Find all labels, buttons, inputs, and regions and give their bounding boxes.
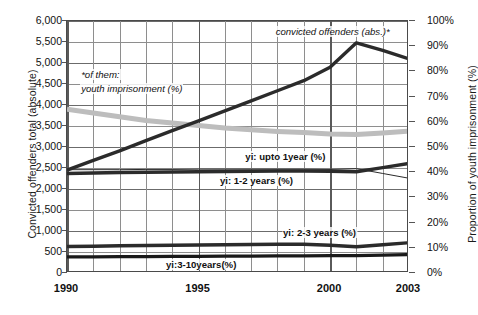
y-tick-label-right: 50%: [427, 141, 467, 151]
y-axis-right-ticks: 0%10%20%30%40%50%60%70%80%90%100%: [418, 0, 462, 315]
y-tick-label-right: 0%: [427, 267, 467, 277]
tick-mark: [409, 121, 415, 122]
y-tick-label-left: 4,500: [18, 78, 62, 88]
series-label: yi: 1-2 years (%): [219, 175, 294, 186]
y-tick-label-left: 6,000: [18, 15, 62, 25]
y-axis-right-title: Proportion of youth imprisonment (%): [466, 34, 478, 274]
y-tick-label-right: 70%: [427, 91, 467, 101]
y-tick-label-left: 5,000: [18, 57, 62, 67]
series-label: *of them:: [80, 69, 120, 80]
y-tick-label-left: 500: [18, 246, 62, 256]
y-tick-label-right: 60%: [427, 116, 467, 126]
series-label: yi:3-10years(%): [165, 259, 237, 270]
tick-mark: [409, 222, 415, 223]
tick-mark: [409, 70, 415, 71]
series-label: yi: 2-3 years (%): [282, 227, 357, 238]
series-label: convicted offenders (abs.)*: [275, 26, 391, 37]
tick-mark: [409, 171, 415, 172]
y-tick-label-right: 90%: [427, 40, 467, 50]
tick-mark: [409, 96, 415, 97]
y-tick-label-left: 5,500: [18, 36, 62, 46]
y-tick-label-left: 0: [18, 267, 62, 277]
tick-mark: [409, 146, 415, 147]
x-tick-label: 2003: [396, 282, 420, 294]
y-tick-label-left: 1,000: [18, 225, 62, 235]
series-line: [67, 109, 408, 134]
y-tick-label-right: 10%: [427, 242, 467, 252]
y-tick-label-right: 20%: [427, 217, 467, 227]
y-tick-label-right: 30%: [427, 191, 467, 201]
tick-mark: [409, 196, 415, 197]
plot-area: convicted offenders (abs.)**of them:yout…: [66, 20, 408, 272]
y-axis-left-ticks: 05001,0001,5002,0002,5003,0003,5004,0004…: [14, 0, 62, 315]
series-label: youth imprisonment (%): [80, 83, 183, 94]
tick-mark: [409, 272, 415, 273]
y-tick-label-left: 3,500: [18, 120, 62, 130]
y-tick-label-left: 1,500: [18, 204, 62, 214]
series-line: [67, 43, 408, 170]
tick-mark: [409, 20, 415, 21]
y-tick-label-right: 40%: [427, 166, 467, 176]
y-tick-label-left: 3,000: [18, 141, 62, 151]
y-tick-label-right: 100%: [427, 15, 467, 25]
y-tick-label-left: 2,500: [18, 162, 62, 172]
y-tick-label-left: 4,000: [18, 99, 62, 109]
series-line: [67, 243, 408, 247]
tick-mark: [62, 272, 67, 273]
y-tick-label-right: 80%: [427, 65, 467, 75]
gridline-vertical: [408, 21, 409, 271]
x-tick-label: 1995: [185, 282, 209, 294]
series-label: yi: upto 1year (%): [244, 151, 326, 162]
x-tick-label: 2000: [317, 282, 341, 294]
x-tick-label: 1990: [54, 282, 78, 294]
series-line: [67, 255, 408, 257]
y-tick-label-left: 2,000: [18, 183, 62, 193]
tick-mark: [409, 45, 415, 46]
tick-mark: [409, 247, 415, 248]
